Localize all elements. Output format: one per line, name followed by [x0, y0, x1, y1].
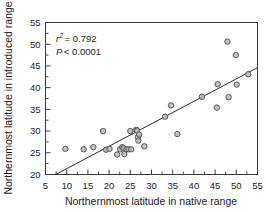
data-point — [214, 105, 219, 110]
y-axis-title: Northernmost latitude in introduced rang… — [2, 1, 14, 194]
y-axis-ticks — [46, 23, 51, 175]
plot-canvas: 510152025303540455055 2025303540455055 r… — [0, 0, 266, 212]
data-point — [162, 114, 167, 119]
data-point — [168, 103, 173, 108]
r-squared-annotation: r2= 0.792 — [56, 32, 97, 44]
data-point — [107, 146, 112, 151]
y-tick-label: 30 — [30, 125, 41, 136]
x-tick-label: 15 — [83, 180, 94, 191]
x-axis-title: Northernmost latitude in native range — [65, 195, 237, 207]
x-tick-label: 40 — [189, 180, 200, 191]
x-axis-ticks — [46, 170, 258, 175]
x-tick-label: 50 — [231, 180, 242, 191]
x-axis-tick-labels: 510152025303540455055 — [43, 180, 263, 191]
x-tick-label: 25 — [125, 180, 136, 191]
x-tick-label: 45 — [210, 180, 221, 191]
x-tick-label: 30 — [146, 180, 157, 191]
y-tick-label: 55 — [30, 17, 41, 28]
data-point — [142, 144, 147, 149]
data-point — [215, 81, 220, 86]
r-exponent: 2 — [58, 32, 63, 39]
y-tick-label: 25 — [30, 147, 41, 158]
x-tick-label: 20 — [104, 180, 115, 191]
data-point — [234, 82, 239, 87]
y-axis-title-text: Northernmost latitude in introduced rang… — [2, 1, 14, 194]
data-point — [233, 52, 238, 57]
y-axis-tick-labels: 2025303540455055 — [30, 17, 41, 180]
data-point — [225, 39, 230, 44]
svg-text:r2= 0.792: r2= 0.792 — [56, 32, 97, 44]
y-tick-label: 35 — [30, 104, 41, 115]
data-point — [136, 138, 141, 143]
svg-text:P< 0.0001: P< 0.0001 — [56, 46, 101, 57]
x-axis-title-text: Northernmost latitude in native range — [65, 195, 237, 207]
data-point — [226, 94, 231, 99]
data-point — [175, 131, 180, 136]
y-tick-label: 20 — [30, 169, 41, 180]
data-point — [199, 94, 204, 99]
x-tick-label: 35 — [167, 180, 178, 191]
data-point — [128, 147, 133, 152]
data-point — [63, 146, 68, 151]
data-point — [81, 147, 86, 152]
r-value: = 0.792 — [65, 33, 97, 44]
data-point — [114, 152, 119, 157]
p-symbol: P — [56, 46, 63, 57]
x-tick-label: 10 — [61, 180, 72, 191]
y-tick-label: 40 — [30, 82, 41, 93]
data-point — [137, 132, 142, 137]
data-point — [245, 71, 250, 76]
regression-line — [56, 68, 258, 175]
x-tick-label: 5 — [43, 180, 48, 191]
p-value-annotation: P< 0.0001 — [56, 46, 101, 57]
x-tick-label: 55 — [252, 180, 263, 191]
data-point — [91, 144, 96, 149]
p-value: < 0.0001 — [64, 46, 101, 57]
y-tick-label: 50 — [30, 39, 41, 50]
scatter-plot-figure: 510152025303540455055 2025303540455055 r… — [0, 0, 266, 212]
y-tick-label: 45 — [30, 60, 41, 71]
data-point — [128, 128, 133, 133]
data-point — [100, 128, 105, 133]
